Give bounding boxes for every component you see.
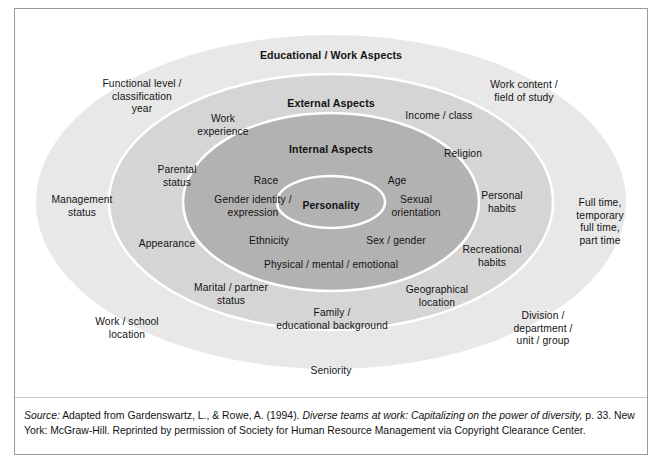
diversity-wheel-diagram: Educational / Work Aspects External Aspe…: [15, 9, 647, 397]
middle-ring-title: External Aspects: [287, 97, 375, 110]
source-part1: Adapted from Gardenswartz, L., & Rowe, A…: [60, 410, 303, 421]
label-management-status: Management status: [51, 194, 112, 219]
label-sex-gender: Sex / gender: [366, 235, 426, 248]
label-appearance: Appearance: [139, 238, 196, 251]
outer-ring-title: Educational / Work Aspects: [260, 49, 402, 62]
source-title: Diverse teams at work: Capitalizing on t…: [302, 410, 582, 421]
label-geographical-location: Geographical location: [406, 284, 468, 309]
label-work-school-location: Work / school location: [95, 316, 159, 341]
label-marital-partner: Marital / partner status: [194, 282, 268, 307]
label-recreational-habits: Recreational habits: [462, 244, 521, 269]
label-division: Division / department / unit / group: [513, 310, 572, 348]
label-work-experience: Work experience: [197, 113, 248, 138]
core-personality-label: Personality: [302, 200, 359, 213]
source-note: Source: Adapted from Gardenswartz, L., &…: [24, 408, 636, 439]
label-work-content: Work content / field of study: [490, 79, 558, 104]
label-seniority: Seniority: [311, 365, 352, 378]
source-divider: [15, 397, 647, 398]
label-gender-identity: Gender identity / expression: [214, 194, 291, 219]
figure-frame: Educational / Work Aspects External Aspe…: [14, 8, 648, 455]
label-sexual-orientation: Sexual orientation: [391, 194, 440, 219]
label-ethnicity: Ethnicity: [249, 235, 289, 248]
label-age: Age: [388, 175, 407, 188]
label-income-class: Income / class: [405, 110, 472, 123]
label-personal-habits: Personal habits: [481, 190, 522, 215]
label-functional-level: Functional level / classification year: [102, 78, 181, 116]
source-label: Source:: [24, 410, 60, 421]
label-parental-status: Parental status: [157, 164, 196, 189]
label-race: Race: [254, 175, 278, 188]
label-full-time: Full time, temporary full time, part tim…: [576, 197, 623, 247]
inner-ring-title: Internal Aspects: [289, 143, 373, 156]
label-religion: Religion: [444, 148, 482, 161]
label-family-educational: Family / educational background: [276, 307, 388, 332]
label-physical-mental-emotional: Physical / mental / emotional: [264, 259, 398, 272]
